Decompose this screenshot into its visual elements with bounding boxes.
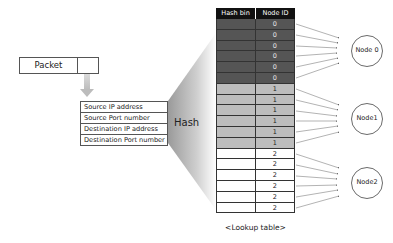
field-destination-port: Destination Port number xyxy=(81,135,167,146)
table-row: 1 xyxy=(216,84,295,95)
table-row: 2 xyxy=(216,203,295,214)
table-row: 2 xyxy=(216,181,295,192)
table-row: 0 xyxy=(216,73,295,84)
field-destination-ip: Destination IP address xyxy=(81,124,167,135)
table-row: 1 xyxy=(216,105,295,116)
node0-connectors xyxy=(296,24,339,78)
table-row: 0 xyxy=(216,41,295,52)
table-row: 1 xyxy=(216,116,295,127)
table-row: 2 xyxy=(216,149,295,160)
table-row: 0 xyxy=(216,19,295,30)
header-hash-bin: Hash bin xyxy=(216,8,256,19)
table-row: 2 xyxy=(216,192,295,203)
table-row: 1 xyxy=(216,127,295,138)
packet-divider xyxy=(77,58,78,73)
field-source-port: Source Port number xyxy=(81,113,167,124)
tuple-fields: Source IP address Source Port number Des… xyxy=(80,101,168,146)
table-row: 0 xyxy=(216,30,295,41)
table-row: 1 xyxy=(216,138,295,149)
table-row: 1 xyxy=(216,95,295,106)
header-node-id: Node ID xyxy=(256,8,295,19)
node1-connectors xyxy=(296,89,339,143)
node1-label: Node1 xyxy=(352,114,382,122)
node0-label: Node 0 xyxy=(352,46,382,54)
hash-label: Hash xyxy=(174,117,199,128)
packet-label: Packet xyxy=(20,58,77,73)
table-row: 2 xyxy=(216,170,295,181)
packet-box: Packet xyxy=(19,57,99,74)
table-row: 0 xyxy=(216,51,295,62)
node2-connectors xyxy=(296,154,339,208)
table-row: 0 xyxy=(216,62,295,73)
lookup-table-caption: <Lookup table> xyxy=(216,223,295,232)
field-source-ip: Source IP address xyxy=(81,102,167,113)
table-row: 2 xyxy=(216,159,295,170)
node2-label: Node2 xyxy=(352,178,382,186)
table-header: Hash bin Node ID xyxy=(216,8,295,19)
lookup-table: Hash bin Node ID 0 0 0 0 0 0 1 1 1 1 1 1… xyxy=(216,8,295,213)
